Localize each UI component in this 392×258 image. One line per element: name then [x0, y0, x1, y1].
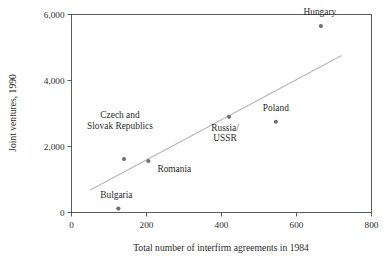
y-tick-label: 6,000 [44, 10, 65, 20]
y-tick-label: 4,000 [44, 76, 65, 86]
data-point-label: Bulgaria [100, 190, 133, 200]
y-tick-label: 0 [60, 208, 65, 218]
data-point[interactable] [122, 157, 126, 161]
data-point-label: Poland [263, 103, 289, 113]
data-point-label: Hungary [303, 7, 336, 17]
x-tick-label: 0 [69, 220, 74, 230]
scatter-plot-figure: 02,0004,0006,0000200400600800 BulgariaCz… [0, 0, 392, 258]
data-point-label: Czech and [100, 110, 140, 120]
x-axis-title: Total number of interfirm agreements in … [133, 242, 309, 253]
axis-tick-labels: 02,0004,0006,0000200400600800 [44, 10, 379, 230]
data-point-label: Slovak Republics [87, 121, 153, 131]
data-point-label: Romania [157, 164, 192, 174]
x-tick-label: 800 [365, 220, 379, 230]
data-point-label: Russia/ [211, 123, 239, 133]
chart-canvas: 02,0004,0006,0000200400600800 BulgariaCz… [0, 0, 392, 258]
data-point[interactable] [146, 159, 150, 163]
x-tick-label: 200 [140, 220, 154, 230]
data-points [116, 24, 323, 211]
data-point-label: USSR [213, 133, 237, 143]
x-tick-label: 400 [215, 220, 229, 230]
y-axis-title: Joint ventures, 1990 [7, 74, 18, 152]
data-point[interactable] [319, 24, 323, 28]
data-point[interactable] [274, 120, 278, 124]
data-point-labels: BulgariaCzech andSlovak RepublicsRomania… [87, 7, 337, 199]
data-point[interactable] [116, 206, 120, 210]
y-tick-label: 2,000 [44, 142, 65, 152]
x-tick-label: 600 [290, 220, 304, 230]
data-point[interactable] [227, 115, 231, 119]
